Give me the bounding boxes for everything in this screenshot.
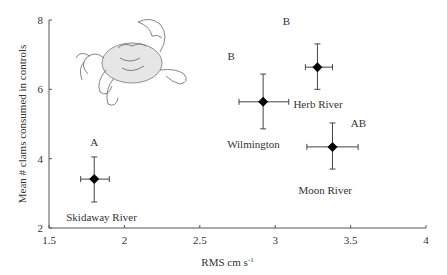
site-label: Herb River: [293, 98, 343, 110]
data-point: Herb RiverB: [283, 15, 343, 110]
x-tick-label: 4: [423, 234, 429, 246]
significance-letter: B: [227, 50, 234, 62]
site-label: Wilmington: [227, 138, 280, 150]
data-point: WilmingtonB: [227, 50, 289, 150]
data-points: Skidaway RiverAWilmingtonBHerb RiverBMoo…: [66, 15, 366, 223]
y-tick-label: 6: [38, 83, 44, 95]
diamond-marker: [258, 97, 268, 107]
crab-illustration: [76, 19, 186, 105]
site-label: Moon River: [299, 184, 353, 196]
tick-labels: 1.522.533.542468RMS cm s-1Mean # clams c…: [16, 14, 429, 268]
x-tick-label: 3.5: [344, 234, 358, 246]
data-point: Skidaway RiverA: [66, 136, 137, 223]
x-tick-label: 1.5: [42, 234, 56, 246]
x-tick-label: 2: [122, 234, 128, 246]
y-tick-label: 2: [38, 222, 44, 234]
y-axis-label: Mean # clams consumed in controls: [16, 45, 28, 204]
axes: [49, 20, 426, 228]
x-tick-label: 3: [272, 234, 278, 246]
y-tick-label: 8: [38, 14, 44, 26]
chart-canvas: 1.522.533.542468RMS cm s-1Mean # clams c…: [0, 0, 447, 275]
significance-letter: A: [90, 136, 98, 148]
significance-letter: AB: [351, 117, 366, 129]
data-point: Moon RiverAB: [299, 117, 367, 196]
x-tick-label: 2.5: [193, 234, 207, 246]
y-tick-label: 4: [38, 153, 44, 165]
diamond-marker: [89, 174, 99, 184]
scatter-chart: 1.522.533.542468RMS cm s-1Mean # clams c…: [0, 0, 447, 275]
significance-letter: B: [283, 15, 290, 27]
site-label: Skidaway River: [66, 211, 137, 223]
diamond-marker: [312, 62, 322, 72]
diamond-marker: [328, 142, 338, 152]
x-axis-label: RMS cm s-1: [201, 256, 254, 268]
